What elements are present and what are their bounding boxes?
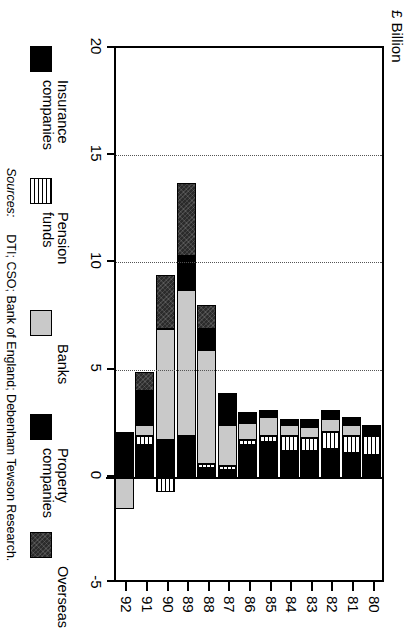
category-tick-label: 87 [221,596,238,613]
bar-segment-pension [300,438,319,451]
bar-row [239,48,258,580]
bar-segment-overseas [177,183,196,256]
category-tick [167,582,169,591]
bar-row [115,48,134,580]
category-tick-label: 83 [303,596,320,613]
bar-segment-banks [342,425,361,436]
bar-row [321,48,340,580]
legend-label-property: Property companies [40,448,70,518]
bar-segment-pension [321,432,340,449]
category-tick-label: 80 [365,596,382,613]
bar-segment-pension [218,466,237,470]
bar-segment-pension [239,440,258,444]
bar-row [342,48,361,580]
bar-segment-insurance [342,453,361,477]
bar-segment-insurance [362,455,381,476]
gridline [116,370,382,371]
bar-segment-banks [280,425,299,436]
value-tick [107,368,116,370]
bar-segment-pension [135,436,154,445]
bar-row [259,48,278,580]
category-tick [228,582,230,591]
value-tick-label: 0 [88,471,105,479]
bar-segment-banks [115,477,134,509]
zero-line [106,477,382,479]
bar-segment-overseas [197,305,216,329]
bar-segment-insurance [239,445,258,477]
legend-swatch-overseas [30,532,52,558]
bar-segment-property [342,417,361,426]
bar-segment-banks [135,425,154,436]
sources-note: Sources: DTI; CSO; Bank of England; Debe… [4,168,18,561]
bar-segment-banks [218,425,237,466]
sources-text: DTI; CSO; Bank of England; Debenham Tews… [4,234,18,561]
legend-swatch-property [30,414,52,440]
bar-segment-property [300,419,319,428]
value-axis: 20151050-5 [82,46,116,582]
bar-segment-insurance [321,449,340,477]
legend-label-insurance: Insurance companies [40,80,70,150]
category-tick-label: 88 [200,596,217,613]
value-tick [107,580,116,582]
bar-segment-property [321,410,340,419]
category-axis: 80818283848586878889909192 [116,582,384,628]
value-tick-label: 15 [88,145,105,162]
bar-segment-insurance [280,451,299,477]
category-tick [249,582,251,591]
bar-row [280,48,299,580]
bar-row [177,48,196,580]
bar-segment-insurance [197,468,216,477]
category-tick [352,582,354,591]
bar-segment-banks [259,417,278,436]
chart-legend: Insurance companiesPension fundsBanksPro… [20,46,70,606]
bar-segment-overseas [156,275,175,329]
bar-segment-pension [197,464,216,468]
category-tick [146,582,148,591]
bar-segment-banks [300,427,319,438]
bar-segment-insurance [300,451,319,477]
legend-swatch-insurance [30,46,52,72]
bar-segment-pension [280,436,299,451]
category-tick [208,582,210,591]
legend-label-banks: Banks [55,344,70,384]
value-tick [107,153,116,155]
bar-segment-property [135,391,154,425]
gridline [116,155,382,156]
value-tick [107,475,116,477]
bar-segment-banks [239,423,258,440]
bar-row [197,48,216,580]
value-tick-label: 5 [88,363,105,371]
bar-segment-property [177,256,196,290]
category-tick [331,582,333,591]
bar-segment-property [362,425,381,436]
gridline [116,262,382,263]
bar-segment-insurance [115,432,134,477]
bar-segment-property [218,393,237,425]
bar-segment-property [280,419,299,425]
bar-row [135,48,154,580]
value-axis-line [114,46,116,582]
bar-segment-pension [342,436,361,453]
legend-label-overseas: Overseas [55,566,70,628]
bar-segment-banks [197,350,216,464]
bar-segment-pension [156,477,175,492]
category-tick [187,582,189,591]
category-tick-label: 92 [118,596,135,613]
chart-figure: £ Billion 20151050-5 8081828384858687888… [0,0,410,632]
value-tick-label: 20 [88,38,105,55]
plot-area [116,46,384,582]
value-tick [107,260,116,262]
bar-segment-property [239,412,258,423]
value-tick [107,46,116,48]
bar-segment-insurance [135,445,154,477]
bar-row [300,48,319,580]
axis-title: £ Billion [389,10,406,63]
category-tick [125,582,127,591]
bar-segment-banks [156,329,175,440]
bar-row [218,48,237,580]
category-tick-label: 91 [138,596,155,613]
bar-segment-pension [259,436,278,442]
category-tick-label: 90 [159,596,176,613]
bar-segment-overseas [135,372,154,391]
bar-segment-insurance [156,440,175,476]
